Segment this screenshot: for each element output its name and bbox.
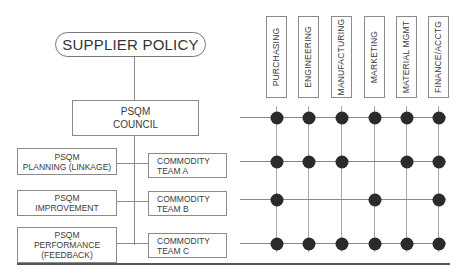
performance-line2: PERFORMANCE — [34, 240, 100, 250]
function-column-line — [406, 106, 407, 252]
function-label: MARKETING — [369, 31, 379, 83]
improvement-line1: PSQM — [35, 193, 98, 203]
commodity-team-b-box: COMMODITY TEAM B — [148, 191, 227, 216]
function-label: ENGINEERING — [303, 26, 313, 88]
team-c-line2: TEAM C — [157, 246, 210, 256]
planning-line1: PSQM — [23, 152, 111, 162]
psqm-organization-diagram: SUPPLIER POLICY PSQM COUNCIL PSQM PLANNI… — [0, 0, 466, 280]
membership-dot — [335, 111, 348, 124]
planning-line2: PLANNING (LINKAGE) — [23, 162, 111, 172]
membership-dot — [368, 111, 381, 124]
psqm-improvement-box: PSQM IMPROVEMENT — [17, 190, 117, 216]
function-label: FINANCE/ACCTG — [433, 21, 443, 93]
function-label: PURCHASING — [271, 28, 281, 87]
function-header-purchasing: PURCHASING — [266, 16, 287, 98]
team-b-line1: COMMODITY — [157, 194, 210, 204]
function-column-line — [374, 106, 375, 252]
team-a-line1: COMMODITY — [157, 156, 210, 166]
function-label: MANUFACTURING — [336, 19, 346, 96]
membership-dot — [368, 237, 381, 250]
performance-line1: PSQM — [34, 230, 100, 240]
bottom-rule — [17, 263, 450, 265]
function-header-manufacturing: MANUFACTURING — [331, 16, 352, 98]
supplier-policy-node: SUPPLIER POLICY — [55, 32, 206, 57]
membership-dot — [302, 111, 315, 124]
membership-dot — [335, 155, 348, 168]
team-b-line2: TEAM B — [157, 204, 210, 214]
function-column-line — [276, 106, 277, 252]
improvement-line2: IMPROVEMENT — [35, 203, 98, 213]
membership-dot — [432, 111, 445, 124]
function-header-engineering: ENGINEERING — [298, 16, 319, 98]
membership-dot — [432, 193, 445, 206]
function-column-line — [308, 106, 309, 252]
membership-dot — [400, 111, 413, 124]
membership-dot — [302, 237, 315, 250]
membership-dot — [432, 155, 445, 168]
commodity-team-c-box: COMMODITY TEAM C — [148, 233, 227, 258]
membership-dot — [270, 237, 283, 250]
membership-dot — [368, 193, 381, 206]
function-column-line — [341, 106, 342, 252]
connector-improvement-team-b — [117, 201, 148, 202]
connector-performance-team-c — [117, 243, 148, 244]
membership-dot — [270, 155, 283, 168]
performance-line3: (FEEDBACK) — [34, 250, 100, 260]
commodity-team-a-box: COMMODITY TEAM A — [148, 153, 227, 178]
supplier-policy-label: SUPPLIER POLICY — [62, 36, 198, 53]
membership-dot — [270, 193, 283, 206]
function-label: MATERIAL MGMT — [401, 21, 411, 94]
membership-dot — [302, 155, 315, 168]
team-a-line2: TEAM A — [157, 166, 210, 176]
psqm-council-box: PSQM COUNCIL — [72, 100, 199, 136]
psqm-performance-box: PSQM PERFORMANCE (FEEDBACK) — [17, 227, 117, 263]
psqm-planning-box: PSQM PLANNING (LINKAGE) — [17, 148, 117, 175]
connector-planning-team-a — [117, 163, 148, 164]
connector-council-trunk — [134, 136, 135, 245]
membership-dot — [335, 237, 348, 250]
function-header-finance-acctg: FINANCE/ACCTG — [428, 16, 449, 98]
function-header-material-mgmt: MATERIAL MGMT — [396, 16, 417, 98]
connector-policy-to-council — [134, 57, 135, 100]
membership-dot — [400, 155, 413, 168]
membership-dot — [400, 237, 413, 250]
function-column-line — [438, 106, 439, 252]
council-line2: COUNCIL — [113, 118, 158, 131]
function-header-marketing: MARKETING — [364, 16, 385, 98]
membership-dot — [432, 237, 445, 250]
team-c-line1: COMMODITY — [157, 236, 210, 246]
council-line1: PSQM — [113, 105, 158, 118]
membership-dot — [270, 111, 283, 124]
